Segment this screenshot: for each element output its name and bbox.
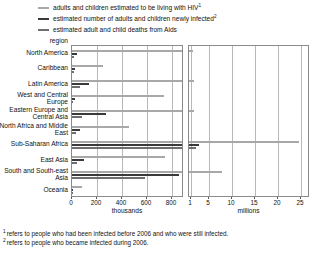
legend-line-icon	[38, 18, 49, 20]
chart-panel-millions	[188, 45, 309, 197]
x-axis-millions: millions 1510152025	[188, 197, 309, 215]
bar	[189, 110, 194, 112]
x-axis-tick-label: 0	[58, 199, 84, 207]
bar	[189, 147, 196, 149]
gridline	[232, 46, 233, 196]
bar	[189, 144, 199, 146]
bar	[72, 110, 183, 112]
chart-footnotes: 1refers to people who had been infected …	[3, 229, 309, 247]
chart-panel-thousands	[71, 45, 183, 197]
footnote: 2refers to people who became infected du…	[3, 238, 309, 247]
bar	[72, 162, 77, 164]
legend-item-label: estimated adult and child deaths from Ai…	[53, 25, 177, 35]
y-axis-label-south-and-south-east-asia: South and South-east Asia	[0, 167, 68, 181]
legend-item: estimated adult and child deaths from Ai…	[0, 25, 311, 36]
y-axis-label-oceania: Oceania	[0, 186, 68, 193]
bar	[189, 80, 194, 82]
gridline	[301, 46, 302, 196]
bar	[72, 192, 73, 194]
bar	[72, 132, 76, 134]
y-axis-label-west-and-central-europe: West and Central Europe	[0, 91, 68, 105]
bar	[72, 129, 80, 131]
bar	[72, 144, 183, 146]
bar	[189, 141, 299, 143]
bar	[72, 113, 106, 115]
bar	[72, 177, 145, 179]
legend-item: estimated number of adults and children …	[0, 14, 311, 25]
bar	[72, 83, 89, 85]
legend-line-icon	[38, 7, 49, 9]
bar	[72, 159, 84, 161]
bar	[72, 65, 103, 67]
y-axis-label-eastern-europe-and-central-asia: Eastern Europe and Central Asia	[0, 106, 68, 120]
bar	[72, 189, 73, 191]
y-axis-label-north-africa-and-middle-east: North Africa and Middle East	[0, 122, 68, 136]
bar	[72, 156, 165, 158]
x-axis-thousands: thousands 0200400600800	[71, 197, 183, 215]
bar	[72, 86, 80, 88]
x-axis-tick-label: 25	[287, 199, 311, 207]
bar	[72, 53, 77, 55]
chart-plot-area: North AmericaCaribbeanLatin AmericaWest …	[0, 45, 311, 197]
gridline	[278, 46, 279, 196]
bar	[72, 116, 82, 118]
legend-item: adults and children estimated to be livi…	[0, 3, 311, 14]
y-axis-category-labels: North AmericaCaribbeanLatin AmericaWest …	[0, 45, 70, 197]
x-axis-tick-label: 600	[133, 199, 159, 207]
bar	[72, 71, 74, 73]
gridline	[209, 46, 210, 196]
bar	[72, 174, 179, 176]
chart-legend: adults and children estimated to be livi…	[0, 3, 311, 36]
gridline	[191, 46, 192, 196]
bar	[72, 186, 82, 188]
bar	[72, 141, 183, 143]
bar	[189, 171, 222, 173]
bar	[72, 171, 183, 173]
bar	[72, 50, 183, 52]
bar	[72, 68, 75, 70]
bar	[189, 50, 193, 52]
gridline	[255, 46, 256, 196]
x-axis-unit-label: millions	[188, 207, 309, 215]
bar	[72, 126, 129, 128]
bar	[72, 98, 75, 100]
y-axis-title: region	[0, 37, 70, 45]
bar	[72, 80, 183, 82]
y-axis-label-east-asia: East Asia	[0, 156, 68, 163]
y-axis-label-north-america: North America	[0, 49, 68, 56]
bar	[72, 56, 74, 58]
y-axis-label-caribbean: Caribbean	[0, 64, 68, 71]
legend-item-label: adults and children estimated to be livi…	[53, 3, 201, 13]
legend-line-icon	[38, 29, 49, 31]
x-axis-unit-label: thousands	[71, 207, 183, 215]
footnote: 1refers to people who had been infected …	[3, 229, 309, 238]
y-axis-label-latin-america: Latin America	[0, 80, 68, 87]
x-axis-tick-label: 400	[108, 199, 134, 207]
bar	[72, 95, 164, 97]
x-axis-tick-label: 200	[83, 199, 109, 207]
bar	[72, 101, 73, 103]
y-axis-label-sub-saharan-africa: Sub-Saharan Africa	[0, 140, 68, 147]
legend-item-label: estimated number of adults and children …	[53, 14, 216, 24]
bar	[72, 147, 183, 149]
